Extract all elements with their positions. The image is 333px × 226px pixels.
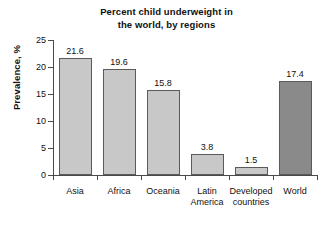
y-axis-tick [48,121,53,122]
bar-value-label: 21.6 [55,47,95,56]
x-axis-tick [273,175,274,180]
y-axis-tick [48,67,53,68]
x-axis-label-line-1: Asia [66,186,84,196]
bar-value-label: 15.8 [143,79,183,88]
x-axis-label-line-1: World [283,186,306,196]
x-axis-label-line-2: countries [221,197,281,208]
bar-developed-countries [235,167,268,175]
y-axis-tick-label: 0 [26,171,46,180]
x-axis-category-label: World [265,186,325,197]
x-axis-tick [317,175,318,180]
bar-africa [103,69,136,175]
y-axis-tick [48,94,53,95]
x-axis-tick [141,175,142,180]
bar-world [279,81,312,175]
x-axis-tick [53,175,54,180]
y-axis-tick-label: 15 [26,90,46,99]
y-axis-tick-label: 25 [26,36,46,45]
y-axis-tick-label: 5 [26,144,46,153]
y-axis-tick [48,40,53,41]
x-axis-tick [229,175,230,180]
x-axis-label-line-1: Oceania [146,186,180,196]
x-axis-label-line-1: Africa [107,186,130,196]
y-axis-tick-label: 10 [26,117,46,126]
y-axis-line [53,40,54,176]
chart-title-line-1: Percent child underweight in [0,6,333,19]
x-axis-tick [185,175,186,180]
bar-value-label: 17.4 [275,70,315,79]
bar-value-label: 19.6 [99,58,139,67]
y-axis-tick [48,148,53,149]
y-axis-tick-label: 20 [26,63,46,72]
x-axis-tick [97,175,98,180]
chart-title: Percent child underweight in the world, … [0,6,333,31]
bar-chart: Percent child underweight in the world, … [0,0,333,226]
chart-title-line-2: the world, by regions [0,19,333,32]
bar-latin-america [191,154,224,175]
bar-value-label: 3.8 [187,143,227,152]
bar-asia [59,58,92,175]
bar-oceania [147,90,180,175]
x-axis-label-line-1: Latin [197,186,217,196]
y-axis-label: Prevalence, % [11,18,22,138]
bar-value-label: 1.5 [231,156,271,165]
